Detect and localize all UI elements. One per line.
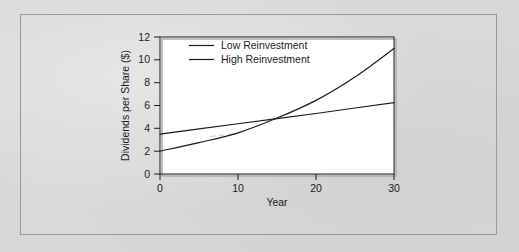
x-tick-label-30: 30 — [388, 182, 400, 194]
y-tick-label-8: 8 — [144, 76, 150, 88]
y-tick-label-10: 10 — [138, 53, 150, 65]
figure-page: 12 10 8 6 4 2 0 0 10 20 30 — [0, 0, 519, 252]
legend-label-low-reinvestment: Low Reinvestment — [221, 39, 307, 51]
y-tick-label-6: 6 — [144, 99, 150, 111]
y-tick-label-4: 4 — [144, 122, 150, 134]
y-tick-label-0: 0 — [144, 168, 150, 180]
y-tick-label-2: 2 — [144, 145, 150, 157]
x-tick-label-10: 10 — [232, 182, 244, 194]
legend-label-high-reinvestment: High Reinvestment — [221, 53, 310, 65]
x-axis-tick-labels: 0 10 20 30 — [157, 182, 400, 194]
x-axis-ticks — [160, 174, 394, 180]
chart-container: 12 10 8 6 4 2 0 0 10 20 30 — [0, 0, 519, 252]
x-tick-label-20: 20 — [310, 182, 322, 194]
y-tick-label-12: 12 — [138, 31, 150, 43]
x-tick-label-0: 0 — [157, 182, 163, 194]
line-chart: 12 10 8 6 4 2 0 0 10 20 30 — [0, 0, 519, 252]
y-axis-tick-labels: 12 10 8 6 4 2 0 — [138, 31, 150, 180]
y-axis-ticks — [154, 37, 160, 174]
y-axis-title: Dividends per Share ($) — [119, 50, 131, 161]
x-axis-title: Year — [266, 196, 288, 208]
